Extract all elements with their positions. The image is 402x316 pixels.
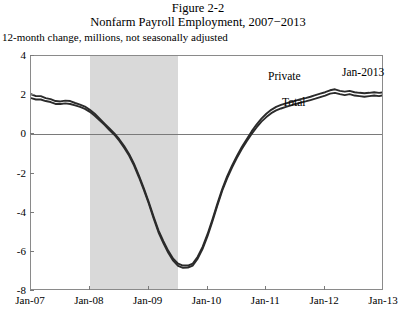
x-tick — [148, 286, 149, 290]
y-tick — [30, 251, 34, 252]
y-tick-label: 4 — [0, 50, 26, 61]
x-tick-label: Jan-08 — [61, 294, 117, 306]
x-tick-label: Jan-13 — [355, 294, 402, 306]
series-label-private: Private — [268, 70, 301, 82]
series-lines — [31, 56, 383, 290]
figure-number: Figure 2-2 — [0, 1, 396, 16]
y-tick — [30, 290, 34, 291]
y-tick-label: -4 — [0, 207, 26, 218]
x-tick — [89, 286, 90, 290]
y-tick-label: -2 — [0, 168, 26, 179]
x-tick — [324, 286, 325, 290]
y-tick — [30, 94, 34, 95]
axis-note: 12-month change, millions, not seasonall… — [2, 31, 228, 44]
series-label-total: Total — [282, 96, 305, 108]
x-tick-label: Jan-07 — [2, 294, 58, 306]
page-title: Nonfarm Payroll Employment, 2007−2013 — [0, 15, 396, 30]
x-tick-label: Jan-11 — [237, 294, 293, 306]
series-line-total — [31, 93, 383, 268]
x-tick — [265, 286, 266, 290]
y-tick-label: 2 — [0, 89, 26, 100]
x-tick-label: Jan-09 — [120, 294, 176, 306]
y-tick-label: 0 — [0, 128, 26, 139]
x-tick — [207, 286, 208, 290]
y-tick — [30, 173, 34, 174]
x-tick-label: Jan-12 — [296, 294, 352, 306]
x-tick-label: Jan-10 — [179, 294, 235, 306]
y-tick — [30, 212, 34, 213]
endpoint-label: Jan-2013 — [342, 66, 384, 78]
y-tick-label: -6 — [0, 246, 26, 257]
y-tick — [30, 55, 34, 56]
plot-area — [30, 55, 383, 290]
y-tick — [30, 133, 34, 134]
